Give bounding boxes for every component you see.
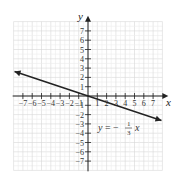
- y-tick-label: −6: [75, 148, 84, 157]
- x-tick-label: −4: [47, 99, 56, 108]
- y-tick-label: −1: [75, 101, 84, 110]
- svg-text:y = −: y = −: [97, 122, 119, 133]
- eq-x: x: [134, 122, 140, 133]
- y-tick-label: −5: [75, 139, 84, 148]
- x-tick-label: 7: [151, 99, 155, 108]
- y-tick-label: −2: [75, 111, 84, 120]
- axes: [13, 16, 169, 172]
- y-tick-label: −4: [75, 129, 84, 138]
- x-tick-label: 2: [105, 99, 109, 108]
- x-tick-label: −7: [19, 99, 28, 108]
- eq-numerator: 1: [127, 120, 131, 128]
- x-tick-label: −6: [28, 99, 37, 108]
- coordinate-plane: −7−6−5−4−3−2−112345677654321−1−2−3−4−5−6…: [0, 0, 178, 179]
- y-tick-label: 3: [80, 64, 84, 73]
- y-tick-label: 4: [80, 55, 84, 64]
- x-tick-label: 3: [114, 99, 118, 108]
- x-axis-label: x: [165, 96, 171, 108]
- y-tick-label: 2: [80, 73, 84, 82]
- x-tick-label: −2: [65, 99, 74, 108]
- eq-equals: = −: [102, 122, 119, 133]
- y-tick-label: 7: [80, 27, 84, 36]
- x-tick-label: −3: [56, 99, 65, 108]
- y-tick-label: −7: [75, 157, 84, 166]
- x-tick-label: 5: [133, 99, 137, 108]
- x-tick-label: 6: [142, 99, 146, 108]
- y-tick-label: 5: [80, 46, 84, 55]
- y-tick-label: 6: [80, 36, 84, 45]
- y-tick-label: −3: [75, 120, 84, 129]
- x-tick-label: −5: [37, 99, 46, 108]
- eq-denominator: 3: [127, 129, 131, 137]
- y-axis-label: y: [77, 10, 83, 22]
- y-tick-label: 1: [80, 83, 84, 92]
- x-tick-label: 4: [123, 99, 127, 108]
